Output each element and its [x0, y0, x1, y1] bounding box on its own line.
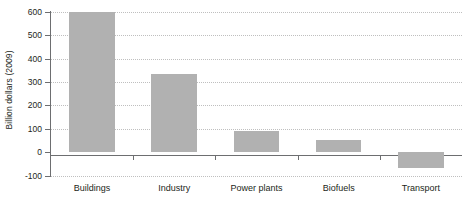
y-axis-tick-mark — [45, 176, 51, 177]
x-axis-label: Power plants — [215, 183, 297, 193]
x-axis-tick-mark — [298, 155, 299, 160]
bar — [234, 131, 280, 152]
y-axis-title-label: Billion dollars (2009) — [4, 50, 14, 129]
x-axis-label: Buildings — [51, 183, 133, 193]
bar — [151, 74, 197, 152]
x-axis-tick-mark — [215, 155, 216, 160]
gridline — [51, 176, 462, 177]
x-axis-tick-mark — [380, 155, 381, 160]
y-axis-tick-mark — [45, 12, 51, 13]
bar-chart-figure: Billion dollars (2009) -1000100200300400… — [0, 0, 470, 203]
y-axis-tick-mark — [45, 82, 51, 83]
y-axis-tick-mark — [45, 152, 51, 153]
y-axis-tick-mark — [45, 105, 51, 106]
y-axis-tick-mark — [45, 59, 51, 60]
y-axis-title: Billion dollars (2009) — [0, 0, 18, 180]
x-axis-label: Biofuels — [298, 183, 380, 193]
x-axis-tick-mark — [133, 155, 134, 160]
y-axis-tick-mark — [45, 35, 51, 36]
x-axis-label: Transport — [380, 183, 462, 193]
bar — [69, 12, 115, 152]
bar — [398, 152, 444, 168]
y-axis-tick-mark — [45, 129, 51, 130]
bar — [316, 140, 362, 152]
x-axis-label: Industry — [133, 183, 215, 193]
